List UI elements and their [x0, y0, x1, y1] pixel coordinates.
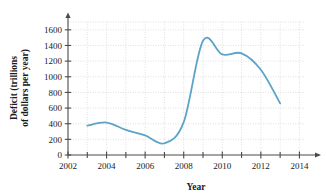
x-axis-tick-label: 2010 — [213, 161, 232, 171]
x-axis-tick-label: 2004 — [98, 161, 117, 171]
y-axis-tick-label: 0 — [58, 150, 63, 160]
x-axis-tick-label: 2014 — [290, 161, 309, 171]
y-axis-title-line1: Deficit (trillions — [9, 56, 20, 120]
x-axis-tick-label: 2008 — [175, 161, 194, 171]
x-axis-tick-label: 2012 — [252, 161, 270, 171]
y-axis-tick-label: 1600 — [44, 25, 63, 35]
y-axis-tick-label: 600 — [49, 103, 63, 113]
x-axis-tick-label: 2002 — [59, 161, 77, 171]
y-axis-tick-label: 1400 — [44, 41, 63, 51]
deficit-line-chart: 02004006008001000120014001600 2002200420… — [0, 0, 326, 194]
y-axis-tick-label: 1200 — [44, 56, 63, 66]
y-axis-tick-label: 800 — [49, 88, 63, 98]
y-axis-tick-label: 400 — [49, 119, 63, 129]
x-axis-title: Year — [187, 182, 207, 192]
y-axis-tick-label: 200 — [49, 135, 63, 145]
x-axis-tick-label: 2006 — [136, 161, 155, 171]
chart-figure: 02004006008001000120014001600 2002200420… — [0, 0, 326, 194]
y-axis-title-line2: of dollars per year) — [20, 49, 31, 127]
y-axis-tick-label: 1000 — [44, 72, 63, 82]
y-axis-title: Deficit (trillions of dollars per year) — [9, 49, 31, 127]
